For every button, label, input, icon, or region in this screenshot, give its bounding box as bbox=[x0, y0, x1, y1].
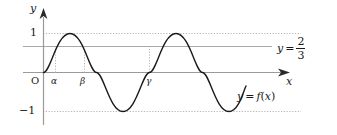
y-tick-label-one: 1 bbox=[30, 27, 37, 38]
fraction-numerator: 2 bbox=[296, 36, 305, 47]
curve-annotation: y=f(x) bbox=[237, 91, 275, 102]
reference-annotation-equals: = bbox=[285, 43, 294, 54]
x-axis-label: x bbox=[286, 76, 292, 87]
reference-line-annotation: y = 2 3 bbox=[277, 36, 305, 61]
reference-annotation-lhs: y bbox=[277, 43, 283, 54]
marker-label-gamma: γ bbox=[146, 77, 151, 86]
marker-label-beta: β bbox=[80, 77, 85, 86]
plot-canvas bbox=[0, 0, 337, 135]
fraction-denominator: 3 bbox=[296, 50, 305, 61]
curve-annotation-close-paren: ) bbox=[271, 90, 275, 103]
origin-label: O bbox=[31, 76, 39, 86]
math-figure: y x 1 −1 O α β γ y = 2 3 y=f(x) bbox=[0, 0, 337, 135]
y-axis-label: y bbox=[30, 3, 36, 14]
curve-annotation-lhs: y bbox=[237, 90, 243, 103]
marker-label-alpha: α bbox=[51, 77, 57, 86]
fraction-two-thirds: 2 3 bbox=[296, 36, 305, 61]
curve-annotation-equals: = bbox=[245, 90, 254, 103]
y-tick-label-negative-one: −1 bbox=[19, 105, 35, 116]
